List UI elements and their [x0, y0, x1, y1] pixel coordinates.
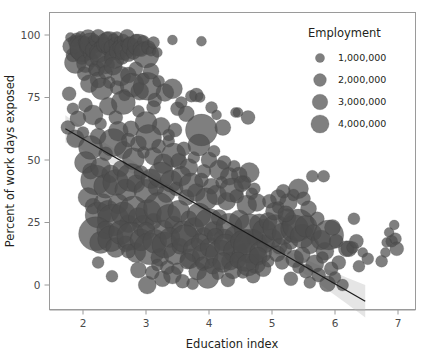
scatter-point: [196, 36, 206, 46]
scatter-point: [380, 248, 390, 258]
scatter-point: [318, 170, 330, 182]
y-tick-label: 0: [34, 279, 41, 291]
scatter-point: [130, 262, 146, 278]
scatter-point: [332, 256, 346, 270]
scatter-point: [111, 91, 135, 115]
legend-bubble: [314, 74, 327, 87]
scatter-point: [349, 234, 363, 248]
legend-label: 3,000,000: [338, 96, 386, 107]
scatter-point: [152, 48, 162, 58]
legend-bubble: [312, 94, 328, 110]
scatter-point: [208, 145, 220, 157]
scatter-point: [316, 252, 328, 264]
scatter-point: [62, 87, 76, 101]
scatter-point: [148, 37, 160, 49]
scatter-point: [390, 242, 404, 256]
x-tick-label: 4: [206, 317, 213, 329]
x-axis-title: Education index: [186, 337, 279, 351]
y-axis-title: Percent of work days exposed: [3, 75, 17, 247]
scatter-point: [278, 206, 294, 222]
y-tick-label: 25: [27, 216, 40, 228]
scatter-point: [168, 123, 182, 137]
legend-bubble: [311, 115, 329, 133]
x-tick-label: 7: [395, 317, 402, 329]
legend-title: Employment: [308, 26, 381, 40]
x-tick-label: 2: [80, 317, 87, 329]
scatter-point: [167, 35, 177, 45]
x-tick-label: 6: [332, 317, 339, 329]
legend-label: 1,000,000: [338, 52, 386, 63]
legend-label: 4,000,000: [338, 118, 386, 129]
scatter-point: [301, 201, 317, 217]
x-tick-label: 5: [269, 317, 276, 329]
chart-canvas: 234567 0255075100 Education index Percen…: [0, 0, 428, 358]
scatter-point: [306, 170, 318, 182]
scatter-point: [241, 111, 255, 125]
scatter-point: [284, 272, 298, 286]
y-tick-label: 100: [20, 29, 40, 41]
scatter-point: [212, 110, 222, 120]
legend-label: 2,000,000: [338, 74, 386, 85]
scatter-point: [162, 79, 182, 99]
scatter-point: [337, 279, 349, 291]
scatter-point: [215, 120, 231, 136]
scatter-point: [382, 238, 392, 248]
scatter-point: [121, 244, 135, 258]
scatter-point: [362, 253, 374, 265]
x-tick-label: 3: [143, 317, 150, 329]
y-tick-label: 50: [27, 154, 40, 166]
scatter-point: [92, 257, 104, 269]
bubble-scatter-figure: 234567 0255075100 Education index Percen…: [0, 0, 428, 358]
scatter-point: [147, 101, 161, 115]
scatter-point: [324, 220, 340, 236]
y-tick-label: 75: [27, 91, 40, 103]
scatter-point: [234, 176, 250, 192]
legend-bubble: [315, 53, 324, 62]
scatter-point: [106, 270, 118, 282]
scatter-point: [348, 213, 360, 225]
scatter-point: [195, 93, 205, 103]
scatter-point: [95, 118, 107, 130]
scatter-point: [389, 220, 399, 230]
